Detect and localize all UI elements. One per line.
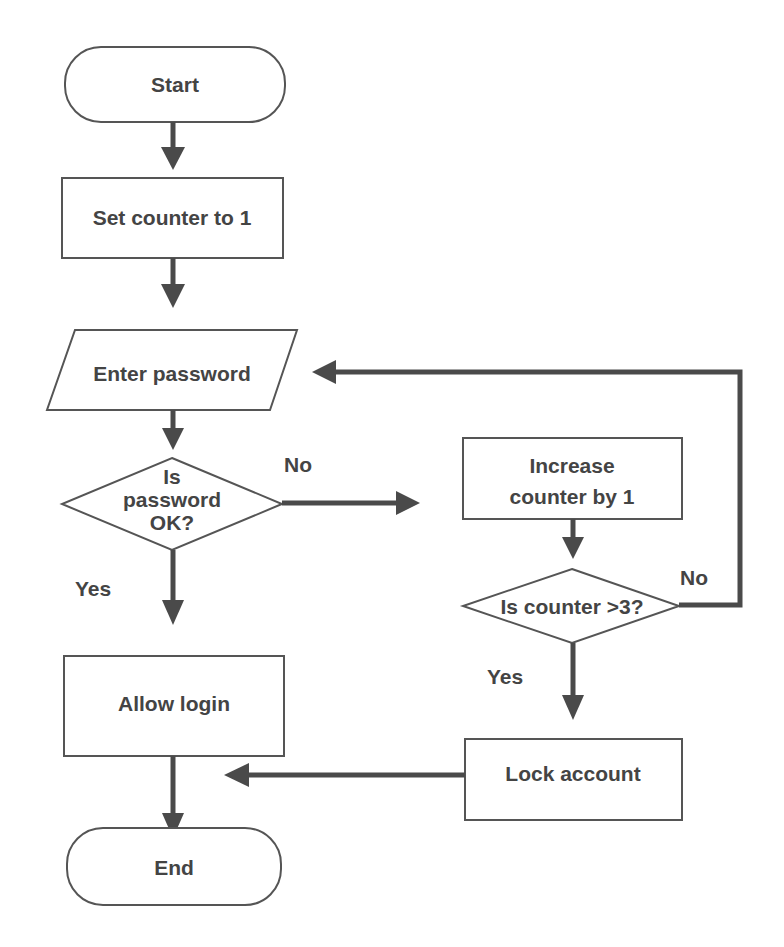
counter-yes-label: Yes [487,665,523,688]
password-check-line-1: Is [163,465,181,488]
arrow-lock-account-to-end [224,763,465,787]
arrow-enter-password-to-password-check [162,410,184,450]
arrow-start-to-set-counter [161,122,185,170]
arrow-increase-to-counter-check [562,519,584,559]
arrow-counter-yes [562,643,584,720]
increase-counter-node: Increase counter by 1 [463,438,682,519]
end-label: End [154,856,194,879]
password-no-label: No [284,453,312,476]
allow-login-node: Allow login [64,656,284,756]
counter-no-label: No [680,566,708,589]
password-check-node: Is password OK? [62,458,282,550]
arrow-password-no [282,491,420,515]
start-label: Start [151,73,199,96]
lock-account-node: Lock account [465,739,682,820]
counter-check-label: Is counter >3? [501,595,644,618]
increase-counter-line-2: counter by 1 [510,485,635,508]
password-yes-label: Yes [75,577,111,600]
arrow-allow-login-to-end [162,756,184,838]
start-node: Start [65,47,285,122]
allow-login-label: Allow login [118,692,230,715]
arrow-set-counter-to-enter-password [161,258,185,308]
enter-password-label: Enter password [93,362,251,385]
flowchart-canvas: Start Set counter to 1 Enter password Is… [0,0,784,947]
password-check-line-2: password [123,488,221,511]
arrow-password-yes [162,550,184,625]
counter-check-node: Is counter >3? [463,569,679,643]
end-node: End [67,828,281,905]
set-counter-node: Set counter to 1 [62,178,283,258]
enter-password-node: Enter password [47,330,297,410]
lock-account-label: Lock account [505,762,640,785]
password-check-line-3: OK? [150,511,194,534]
set-counter-label: Set counter to 1 [93,206,252,229]
increase-counter-line-1: Increase [529,454,614,477]
